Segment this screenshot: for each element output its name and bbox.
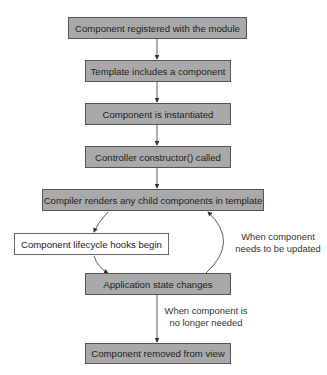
node-component-instantiated: Component is instantiated — [85, 103, 231, 125]
edge-label-remove: When component is no longer needed — [160, 305, 252, 329]
arrow-n5-n6 — [94, 212, 108, 232]
edge-label-remove-line1: When component is — [160, 305, 252, 317]
node-component-registered: Component registered with the module — [68, 17, 247, 39]
node-template-includes: Template includes a component — [85, 60, 231, 82]
node-component-removed: Component removed from view — [85, 343, 231, 364]
edge-label-remove-line2: no longer needed — [160, 317, 252, 329]
arrow-n6-n7 — [94, 256, 108, 273]
arrow-n7-n5 — [206, 212, 224, 273]
edge-label-update-line2: needs to be updated — [232, 243, 324, 255]
edge-label-update: When component needs to be updated — [232, 231, 324, 255]
node-state-changes: Application state changes — [85, 273, 231, 295]
node-compiler-renders: Compiler renders any child components in… — [42, 189, 264, 211]
node-lifecycle-hooks: Component lifecycle hooks begin — [14, 233, 169, 255]
node-controller-constructor: Controller constructor() called — [85, 146, 231, 168]
edge-label-update-line1: When component — [232, 231, 324, 243]
